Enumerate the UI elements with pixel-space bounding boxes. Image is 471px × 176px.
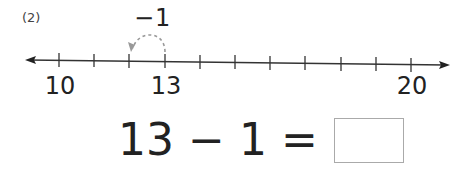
- tick-label-20: 20: [397, 72, 428, 100]
- equation-operator: −: [188, 116, 225, 164]
- equation-left: 13: [118, 116, 174, 164]
- answer-box[interactable]: [334, 118, 404, 163]
- tick-label-13: 13: [151, 72, 182, 100]
- hop-arrow-icon: [128, 42, 135, 52]
- tick-label-10: 10: [45, 72, 76, 100]
- equation: 13 − 1 =: [118, 116, 404, 164]
- ticks: [59, 53, 411, 72]
- hop-arc: [133, 35, 165, 52]
- equation-equals: =: [281, 116, 318, 164]
- equation-right: 1: [239, 116, 267, 164]
